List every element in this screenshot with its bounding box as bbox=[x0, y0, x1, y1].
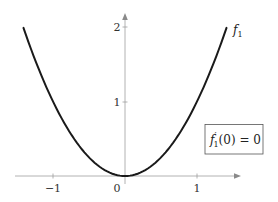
x-axis-arrow-icon bbox=[234, 173, 241, 179]
chart: −1 0 1 1 2 f1 f′1(0) = 0 bbox=[0, 0, 278, 202]
y-tick-label-2: 2 bbox=[114, 21, 121, 34]
x-tick-label-neg1: −1 bbox=[45, 182, 61, 195]
y-axis-arrow-icon bbox=[122, 13, 128, 20]
function-label-f1: f1 bbox=[232, 23, 243, 39]
y-tick-label-1: 1 bbox=[114, 96, 121, 109]
function-label-subscript: 1 bbox=[237, 30, 242, 39]
annotation-rest: (0) = 0 bbox=[219, 133, 261, 147]
x-tick-label-1: 1 bbox=[194, 182, 201, 195]
x-tick-label-0: 0 bbox=[114, 182, 121, 195]
